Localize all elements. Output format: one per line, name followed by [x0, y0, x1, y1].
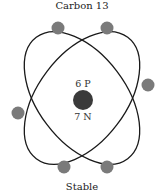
electron [12, 107, 25, 120]
electron [142, 79, 155, 92]
electron [52, 22, 65, 35]
nucleus [73, 90, 93, 110]
atom-diagram: 6 P 7 N [0, 0, 164, 196]
stability-caption: Stable [0, 181, 164, 192]
neutrons-label: 7 N [74, 111, 91, 122]
protons-label: 6 P [75, 78, 91, 89]
electron [58, 161, 71, 174]
electron [101, 22, 114, 35]
electron [101, 161, 114, 174]
